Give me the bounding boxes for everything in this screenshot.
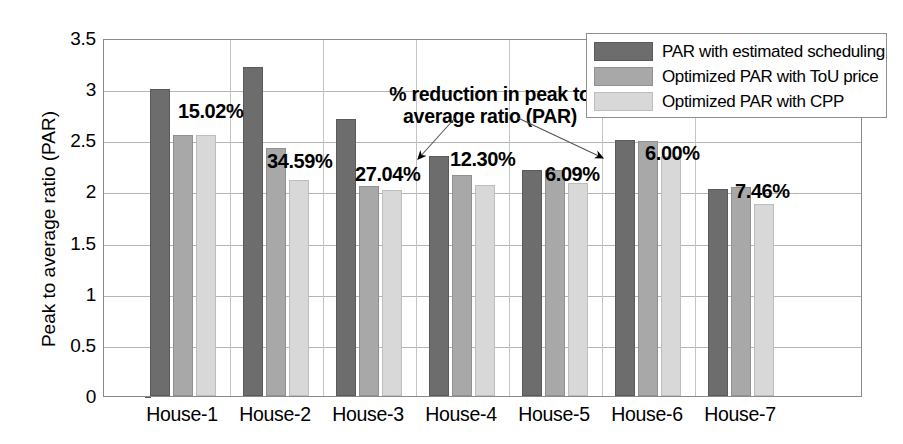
bar[interactable] bbox=[615, 140, 635, 396]
data-label: 34.59% bbox=[267, 150, 332, 173]
bar[interactable] bbox=[150, 89, 170, 396]
legend-label: PAR with estimated scheduling bbox=[662, 42, 885, 62]
y-tick-label: 3 bbox=[86, 79, 96, 101]
bar[interactable] bbox=[289, 180, 309, 396]
y-axis-ticks: 00.511.522.533.5 bbox=[48, 0, 96, 444]
bar[interactable] bbox=[452, 175, 472, 396]
bar[interactable] bbox=[382, 190, 402, 396]
y-tick-label: 2 bbox=[86, 181, 96, 203]
legend-swatch-icon bbox=[594, 67, 653, 86]
y-tick-label: 0 bbox=[86, 386, 96, 408]
bar[interactable] bbox=[475, 185, 495, 396]
data-label: 7.46% bbox=[735, 180, 790, 203]
annotation-line-1: % reduction in peak to bbox=[380, 84, 600, 106]
legend: PAR with estimated scheduling Optimized … bbox=[586, 33, 887, 118]
vertical-gridline bbox=[323, 40, 324, 396]
bar[interactable] bbox=[731, 187, 751, 396]
x-axis-label: House-3 bbox=[332, 403, 404, 426]
bar[interactable] bbox=[568, 183, 588, 396]
legend-item-0[interactable]: PAR with estimated scheduling bbox=[594, 39, 879, 64]
bar[interactable] bbox=[336, 119, 356, 396]
bar[interactable] bbox=[243, 67, 263, 396]
bar[interactable] bbox=[708, 189, 728, 396]
data-label: 6.00% bbox=[645, 142, 700, 165]
y-tick-label: 1 bbox=[86, 284, 96, 306]
x-axis-label: House-6 bbox=[611, 403, 683, 426]
legend-swatch-icon bbox=[594, 42, 653, 61]
bar[interactable] bbox=[266, 148, 286, 396]
legend-label: Optimized PAR with ToU price bbox=[662, 67, 878, 87]
legend-swatch-icon bbox=[594, 92, 653, 111]
bar[interactable] bbox=[173, 135, 193, 396]
legend-label: Optimized PAR with CPP bbox=[662, 92, 844, 112]
x-axis-label: House-5 bbox=[518, 403, 590, 426]
bar[interactable] bbox=[429, 156, 449, 396]
x-axis-label: House-7 bbox=[704, 403, 776, 426]
bar-chart: Peak to average ratio (PAR) 00.511.522.5… bbox=[0, 0, 903, 444]
bar[interactable] bbox=[638, 141, 658, 396]
data-label: 15.02% bbox=[178, 100, 243, 123]
legend-item-1[interactable]: Optimized PAR with ToU price bbox=[594, 64, 879, 89]
annotation-text: % reduction in peak to average ratio (PA… bbox=[380, 84, 600, 128]
data-label: 12.30% bbox=[450, 148, 515, 171]
bar[interactable] bbox=[661, 156, 681, 396]
annotation-line-2: average ratio (PAR) bbox=[380, 106, 600, 128]
y-tick-label: 1.5 bbox=[70, 233, 96, 255]
bar[interactable] bbox=[754, 204, 774, 396]
legend-item-2[interactable]: Optimized PAR with CPP bbox=[594, 89, 879, 114]
x-axis-label: House-1 bbox=[146, 403, 218, 426]
bar[interactable] bbox=[196, 135, 216, 396]
vertical-gridline bbox=[230, 40, 231, 396]
y-tick-mark bbox=[145, 397, 151, 398]
y-tick-label: 2.5 bbox=[70, 130, 96, 152]
bar[interactable] bbox=[522, 170, 542, 396]
x-axis-label: House-2 bbox=[239, 403, 311, 426]
y-tick-label: 0.5 bbox=[70, 335, 96, 357]
y-tick-label: 3.5 bbox=[70, 28, 96, 50]
data-label: 27.04% bbox=[355, 163, 420, 186]
data-label: 6.09% bbox=[545, 163, 600, 186]
x-axis-label: House-4 bbox=[425, 403, 497, 426]
bar[interactable] bbox=[359, 186, 379, 396]
bar[interactable] bbox=[545, 170, 565, 396]
gridline bbox=[104, 142, 861, 143]
